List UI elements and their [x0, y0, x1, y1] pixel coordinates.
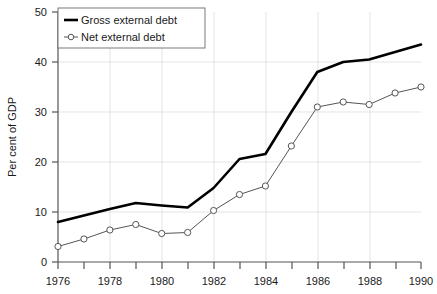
data-point-marker: [340, 99, 346, 105]
data-point-marker: [314, 104, 320, 110]
data-point-marker: [81, 236, 87, 242]
data-point-marker: [133, 221, 139, 227]
data-point-marker: [366, 101, 372, 107]
circle-open-marker-icon: [68, 34, 74, 40]
data-point-marker: [55, 243, 61, 249]
y-tick-label: 0: [41, 256, 47, 268]
x-tick-label: 1978: [98, 275, 122, 287]
data-point-marker: [210, 207, 216, 213]
data-point-marker: [107, 227, 113, 233]
data-point-marker: [418, 84, 424, 90]
y-axis-tick-labels: 50 40 30 20 10 0: [35, 6, 47, 268]
chart-container: 50 40 30 20 10 0 1976 1978 1980 1982 198…: [0, 0, 437, 294]
x-tick-label: 1976: [46, 275, 70, 287]
y-tick-label: 50: [35, 6, 47, 18]
legend-label-gross: Gross external debt: [81, 14, 177, 26]
data-point-marker: [185, 229, 191, 235]
data-point-marker: [288, 143, 294, 149]
x-tick-label: 1986: [306, 275, 330, 287]
x-axis-ticks: [58, 262, 421, 269]
x-axis-tick-labels: 1976 1978 1980 1982 1984 1986 1988 1990: [46, 275, 433, 287]
plot-area-background: [58, 12, 421, 262]
external-debt-line-chart: 50 40 30 20 10 0 1976 1978 1980 1982 198…: [0, 0, 437, 294]
y-axis-title: Per cent of GDP: [6, 97, 18, 177]
legend-label-net: Net external debt: [81, 31, 165, 43]
x-tick-label: 1982: [202, 275, 226, 287]
x-tick-label: 1988: [358, 275, 382, 287]
x-tick-label: 1984: [254, 275, 278, 287]
y-tick-label: 20: [35, 156, 47, 168]
data-point-marker: [236, 191, 242, 197]
data-point-marker: [392, 90, 398, 96]
y-tick-label: 10: [35, 206, 47, 218]
data-point-marker: [159, 230, 165, 236]
chart-legend: Gross external debt Net external debt: [58, 8, 205, 48]
y-tick-label: 40: [35, 56, 47, 68]
x-tick-label: 1980: [150, 275, 174, 287]
y-axis-ticks: [52, 12, 58, 262]
y-tick-label: 30: [35, 106, 47, 118]
data-point-marker: [262, 183, 268, 189]
x-tick-label: 1990: [409, 275, 433, 287]
